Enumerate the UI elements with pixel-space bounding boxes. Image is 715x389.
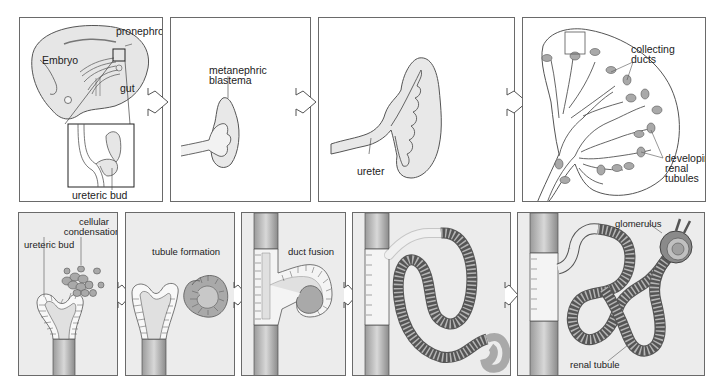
label-ureteric-bud-bottom: ureteric bud — [24, 240, 74, 250]
mature-nephron-illustration — [518, 213, 705, 376]
label-glomerulus: glomerulus — [615, 219, 661, 229]
embryo-illustration — [20, 18, 163, 202]
panel-collecting-ducts: collecting ducts developing renal tubule… — [522, 17, 706, 202]
label-condensation: condensation — [57, 227, 118, 237]
duct-fusion-illustration — [242, 213, 346, 376]
label-duct-fusion: duct fusion — [288, 247, 334, 257]
arrow-icon — [294, 88, 318, 116]
label-embryo: Embryo — [42, 55, 78, 65]
label-ureter: ureter — [357, 166, 384, 176]
panel-tubule-formation: tubule formation — [125, 212, 235, 376]
metanephric-illustration — [171, 18, 311, 202]
arrow-icon — [146, 88, 170, 116]
panel-cellular-condensation: cellular condensation ureteric bud — [18, 212, 118, 376]
label-tubules: tubules — [665, 173, 699, 183]
label-renal-tubule: renal tubule — [570, 360, 620, 370]
panel-mature-nephron: glomerulus renal tubule — [517, 212, 705, 376]
label-tubule-formation: tubule formation — [152, 247, 220, 257]
panel-duct-fusion: duct fusion — [241, 212, 346, 376]
label-pronephros: pronephros — [116, 26, 163, 36]
label-ureteric-bud-top: ureteric bud — [72, 190, 127, 200]
condensation-illustration — [19, 213, 118, 376]
label-gut: gut — [120, 83, 135, 93]
panel-ureter: ureter — [318, 17, 515, 202]
panel-tubule-elongation — [352, 212, 511, 376]
panel-metanephric-blastema: metanephric blastema — [170, 17, 311, 202]
label-ducts: ducts — [631, 54, 656, 64]
tubule-elongation-illustration — [353, 213, 511, 376]
tubule-formation-illustration — [126, 213, 235, 376]
label-blastema: blastema — [209, 75, 252, 85]
panel-embryo: pronephros Embryo gut ureteric bud — [19, 17, 163, 202]
ureter-kidney-illustration — [319, 18, 515, 202]
